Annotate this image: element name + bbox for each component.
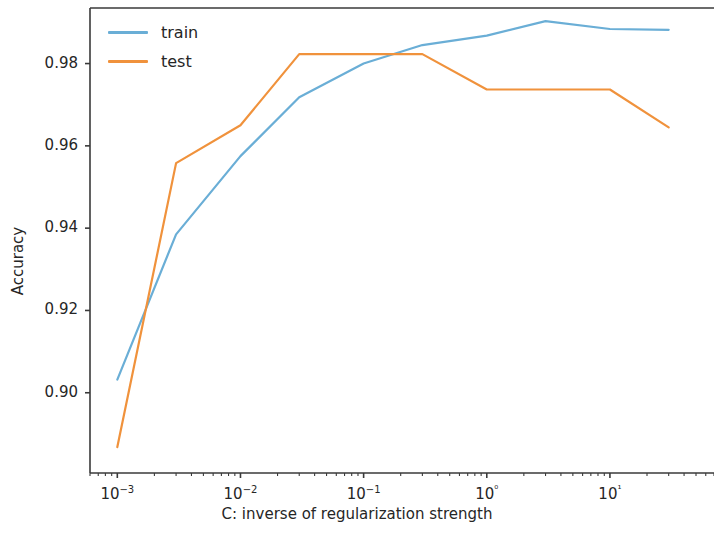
y-tick-label: 0.98 <box>0 54 78 72</box>
x-tick-label: 10¹ <box>570 485 650 503</box>
legend-entry-test: test <box>108 50 192 72</box>
y-tick-label: 0.94 <box>0 218 78 236</box>
legend-label: train <box>161 23 198 42</box>
matplotlib-figure: Accuracy C: inverse of regularization st… <box>0 0 714 533</box>
y-tick-label: 0.90 <box>0 383 78 401</box>
x-axis-label: C: inverse of regularization strength <box>0 505 714 523</box>
legend-label: test <box>161 52 192 71</box>
legend-swatch-test <box>108 60 148 63</box>
x-tick-label: 10⁰ <box>447 485 527 503</box>
y-tick-label: 0.92 <box>0 300 78 318</box>
x-tick-label: 10−2 <box>200 485 280 503</box>
plot-canvas <box>0 0 714 533</box>
legend-entry-train: train <box>108 21 198 43</box>
legend-swatch-train <box>108 31 148 34</box>
y-tick-label: 0.96 <box>0 136 78 154</box>
series-line-train <box>117 21 668 379</box>
series-line-test <box>117 54 668 447</box>
x-tick-label: 10−3 <box>77 485 157 503</box>
x-tick-label: 10−1 <box>324 485 404 503</box>
